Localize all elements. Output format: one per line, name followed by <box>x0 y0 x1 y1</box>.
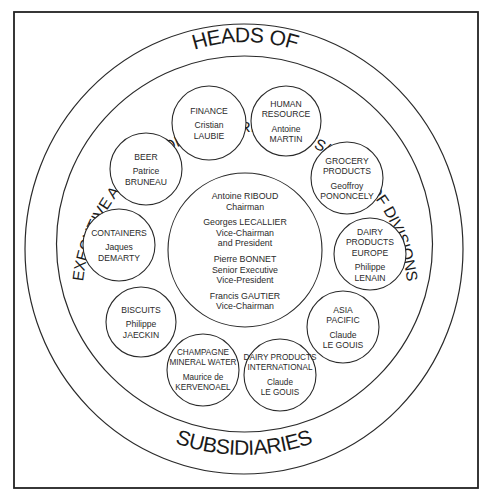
division-head-first: Claude <box>323 330 364 340</box>
executive-name: Pierre BONNET <box>203 254 287 265</box>
division-name: PRODUCTS <box>346 237 394 247</box>
division-head: Geoffroy PONONCELY <box>320 181 373 202</box>
division-name: INTERNATIONAL <box>244 364 317 374</box>
division-head-last: DEMARTY <box>91 253 147 263</box>
division-head-first: Claude <box>244 378 317 388</box>
division-head: Patrice BRUNEAU <box>125 167 167 188</box>
division-name: DAIRY <box>346 227 394 237</box>
division-finance: FINANCE Cristian LAUBIE <box>190 106 228 141</box>
division-head-first: Patrice <box>125 167 167 177</box>
division-head-last: MARTIN <box>262 134 311 144</box>
division-name: HUMAN <box>262 99 311 109</box>
division-grocery-products: GROCERY PRODUCTS Geoffroy PONONCELY <box>320 156 373 202</box>
division-head-last: JAECKIN <box>121 330 161 340</box>
division-name: CHAMPAGNE <box>169 348 236 358</box>
division-head: Philippe JAECKIN <box>121 320 161 341</box>
division-name: BISCUITS <box>121 305 161 315</box>
division-biscuits: BISCUITS Philippe JAECKIN <box>121 305 161 340</box>
executive-title: Vice-President <box>203 275 287 286</box>
division-name: FINANCE <box>190 106 228 116</box>
division-name: DAIRY PRODUCTS <box>244 353 317 363</box>
division-containers: CONTAINERS Jaques DEMARTY <box>91 228 147 263</box>
division-dairy-products-international: DAIRY PRODUCTS INTERNATIONAL Claude LE G… <box>244 353 317 399</box>
division-name: CONTAINERS <box>91 228 147 238</box>
division-head-last: BRUNEAU <box>125 177 167 187</box>
division-head: Cristian LAUBIE <box>190 121 228 142</box>
division-head-last: LAUBIE <box>190 131 228 141</box>
division-head-first: Philippe <box>346 262 394 272</box>
division-head-first: Maurice de <box>169 373 236 383</box>
division-head-last: LE GOUIS <box>244 388 317 398</box>
executive-name: Georges LECALLIER <box>203 217 287 228</box>
division-name: GROCERY <box>320 156 373 166</box>
division-dairy-products-europe: DAIRY PRODUCTS EUROPE Philippe LENAIN <box>346 227 394 283</box>
division-head: Antoine MARTIN <box>262 124 311 145</box>
division-head: Maurice de KERVENOAEL <box>169 373 236 394</box>
division-head-last: LENAIN <box>346 273 394 283</box>
division-head: Claude LE GOUIS <box>323 330 364 351</box>
executive-entry: Georges LECALLIER Vice-Chairman and Pres… <box>203 217 287 249</box>
division-name: PACIFIC <box>323 316 364 326</box>
division-head-first: Jaques <box>91 243 147 253</box>
executive-entry: Francis GAUTIER Vice-Chairman <box>203 290 287 311</box>
executive-title: Vice-Chairman <box>203 301 287 312</box>
executive-title: Senior Executive <box>203 264 287 275</box>
division-name: EUROPE <box>346 248 394 258</box>
division-name: BEER <box>125 152 167 162</box>
division-head-first: Philippe <box>121 320 161 330</box>
division-head-last: PONONCELY <box>320 191 373 201</box>
division-head-first: Geoffroy <box>320 181 373 191</box>
executive-entry: Pierre BONNET Senior Executive Vice-Pres… <box>203 254 287 286</box>
executive-name: Antoine RIBOUD <box>203 191 287 202</box>
division-name: PRODUCTS <box>320 167 373 177</box>
division-name: ASIA <box>323 305 364 315</box>
executive-committee: Antoine RIBOUD Chairman Georges LECALLIE… <box>203 191 287 312</box>
division-head-first: Cristian <box>190 121 228 131</box>
division-head: Jaques DEMARTY <box>91 243 147 264</box>
division-beer: BEER Patrice BRUNEAU <box>125 152 167 187</box>
division-head-first: Antoine <box>262 124 311 134</box>
executive-name: Francis GAUTIER <box>203 290 287 301</box>
division-head: Philippe LENAIN <box>346 262 394 283</box>
executive-title: and President <box>203 238 287 249</box>
division-head-last: LE GOUIS <box>323 340 364 350</box>
division-head: Claude LE GOUIS <box>244 378 317 399</box>
division-name: MINERAL WATER <box>169 359 236 369</box>
division-champagne-mineral-water: CHAMPAGNE MINERAL WATER Maurice de KERVE… <box>169 348 236 394</box>
executive-entry: Antoine RIBOUD Chairman <box>203 191 287 212</box>
division-head-last: KERVENOAEL <box>169 383 236 393</box>
executive-title: Vice-Chairman <box>203 227 287 238</box>
executive-title: Chairman <box>203 201 287 212</box>
division-name: RESOURCE <box>262 110 311 120</box>
division-human-resource: HUMAN RESOURCE Antoine MARTIN <box>262 99 311 145</box>
division-asia-pacific: ASIA PACIFIC Claude LE GOUIS <box>323 305 364 351</box>
